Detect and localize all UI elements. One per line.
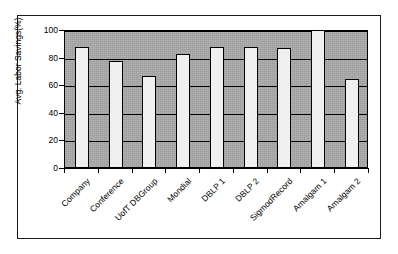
x-tick-mark-4 <box>199 169 200 173</box>
bar-conference <box>109 61 123 167</box>
bar-dblp-1 <box>210 47 224 167</box>
x-axis-line <box>64 168 369 169</box>
x-tick-mark-9 <box>368 169 369 173</box>
y-tick-label-0: 0 <box>32 164 58 173</box>
y-tick-label-40: 40 <box>32 109 58 118</box>
bar-dblp-2 <box>244 47 258 167</box>
x-tick-mark-0 <box>64 169 65 173</box>
x-tick-mark-8 <box>334 169 335 173</box>
y-axis-line <box>64 30 65 169</box>
x-tick-mark-6 <box>267 169 268 173</box>
bar-uoft-dbgroup <box>142 76 156 167</box>
bar-company <box>75 47 89 167</box>
y-tick-label-20: 20 <box>32 136 58 145</box>
x-tick-mark-1 <box>98 169 99 173</box>
y-tick-label-100: 100 <box>32 26 58 35</box>
bar-amalgam-1 <box>311 30 325 167</box>
x-tick-mark-5 <box>233 169 234 173</box>
plot-area <box>64 30 368 168</box>
bar-sigmodrecord <box>277 48 291 167</box>
y-tick-label-80: 80 <box>32 54 58 63</box>
x-tick-mark-2 <box>132 169 133 173</box>
bar-mondial <box>176 54 190 167</box>
y-axis-title: Avg. Labor Savings(%) <box>13 1 23 121</box>
x-tick-mark-3 <box>165 169 166 173</box>
bar-amalgam-2 <box>345 79 359 167</box>
y-tick-label-60: 60 <box>32 81 58 90</box>
bar-chart-figure: Avg. Labor Savings(%) 100 80 60 40 20 0 … <box>0 0 398 254</box>
x-tick-mark-7 <box>300 169 301 173</box>
